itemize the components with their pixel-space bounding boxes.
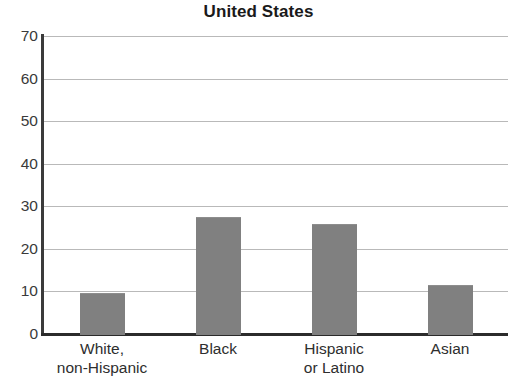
bar — [428, 285, 473, 335]
bar — [312, 224, 357, 335]
bar-series — [0, 0, 517, 383]
bar — [196, 217, 241, 335]
bar-chart: United States 010203040506070 White, non… — [0, 0, 517, 383]
x-axis-category-labels: White, non-HispanicBlackHispanic or Lati… — [0, 339, 517, 383]
bar — [80, 293, 125, 335]
x-axis-category-label: Asian — [379, 339, 517, 358]
